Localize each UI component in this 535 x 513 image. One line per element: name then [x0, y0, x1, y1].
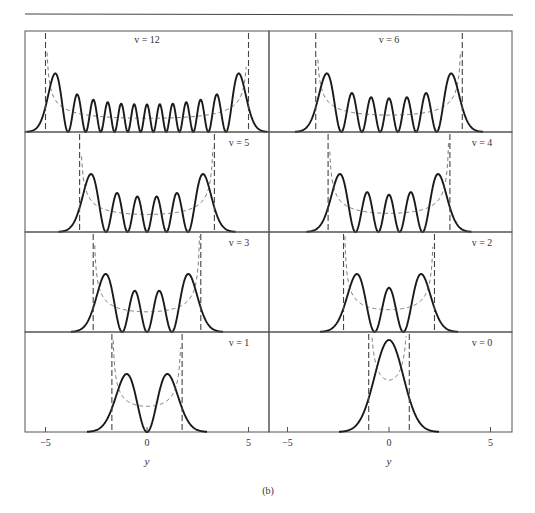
- panel-label: v = 6: [379, 34, 400, 45]
- quantum-density-curve: [59, 174, 236, 232]
- panel-grid: v = 12v = 6v = 5v = 4v = 3v = 2v = 1v = …: [25, 31, 512, 432]
- x-tick-label: 5: [246, 437, 251, 448]
- figure-caption-label: (b): [262, 485, 274, 497]
- quantum-density-curve: [295, 73, 483, 132]
- x-axis-label-left: y: [144, 455, 150, 467]
- classical-density-curve: [47, 52, 246, 118]
- classical-density-curve: [113, 340, 180, 406]
- x-tick-label: 0: [145, 437, 150, 448]
- panel-v12: v = 12: [25, 31, 269, 132]
- panel-v0: v = 0: [269, 332, 512, 432]
- quantum-density-curve: [71, 274, 223, 332]
- panel-v1: v = 1: [25, 332, 269, 432]
- top-rule: [25, 14, 513, 15]
- panel-v4: v = 4: [269, 132, 512, 232]
- classical-density-curve: [95, 236, 200, 312]
- panel-v5: v = 5: [25, 132, 269, 232]
- x-axis-label-right: y: [386, 455, 392, 467]
- x-axes: −505−505: [40, 427, 493, 448]
- classical-density-curve: [345, 236, 433, 309]
- x-tick-label: −5: [282, 437, 293, 448]
- x-tick-label: 0: [387, 437, 392, 448]
- panel-label: v = 3: [229, 237, 250, 248]
- quantum-density-curve: [339, 340, 439, 432]
- panel-label: v = 4: [472, 137, 493, 148]
- classical-density-curve: [318, 52, 461, 115]
- quantum-density-curve: [27, 73, 268, 132]
- panel-frame: [269, 31, 512, 132]
- panel-frame: [25, 31, 269, 132]
- panel-label: v = 2: [472, 237, 493, 248]
- quantum-density-curve: [87, 374, 207, 432]
- panel-label: v = 0: [472, 337, 493, 348]
- x-tick-label: 5: [488, 437, 493, 448]
- panel-label: v = 5: [229, 137, 250, 148]
- quantum-density-curve: [307, 174, 472, 232]
- panel-v2: v = 2: [269, 232, 512, 332]
- panel-label: v = 12: [134, 34, 160, 45]
- x-tick-label: −5: [40, 437, 51, 448]
- panel-v3: v = 3: [25, 232, 269, 332]
- panel-v6: v = 6: [269, 31, 512, 132]
- panel-label: v = 1: [229, 337, 250, 348]
- classical-density-curve: [82, 149, 213, 215]
- quantum-density-curve: [320, 274, 458, 332]
- figure-canvas: v = 12v = 6v = 5v = 4v = 3v = 2v = 1v = …: [0, 0, 535, 513]
- classical-density-curve: [372, 336, 406, 380]
